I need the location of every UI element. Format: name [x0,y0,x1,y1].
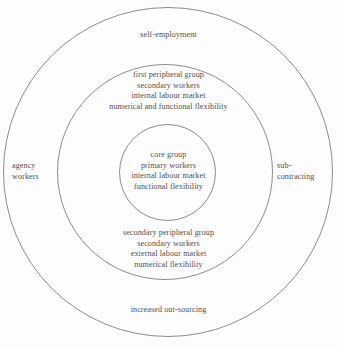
label-first-peripheral-group: first peripheral group secondary workers… [0,70,337,112]
label-self-employment: self-employment [0,30,337,41]
label-agency-workers: agency workers [12,161,39,182]
label-increased-outsourcing: increased out-sourcing [0,305,337,316]
flexible-firm-diagram: self-employment first peripheral group s… [0,0,337,347]
label-sub-contracting: sub- contracting [277,161,315,182]
label-secondary-peripheral-group: secondary peripheral group secondary wor… [0,228,337,270]
